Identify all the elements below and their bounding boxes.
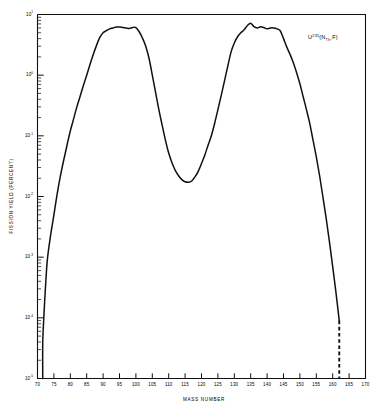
y-tick-label: 10-4 <box>25 314 33 320</box>
x-tick-label: 135 <box>247 382 255 387</box>
x-tick-label: 160 <box>329 382 337 387</box>
series-annotation: U235(NTh,F) <box>308 34 338 42</box>
y-tick-label: 100 <box>26 71 33 77</box>
y-axis-tick-labels: 10110010-110-210-310-410-5 <box>25 10 33 380</box>
x-tick-label: 115 <box>181 382 189 387</box>
x-tick-label: 90 <box>100 382 106 387</box>
x-tick-label: 105 <box>148 382 156 387</box>
x-tick-label: 70 <box>35 382 41 387</box>
y-tick-label: 10-2 <box>25 192 33 198</box>
x-axis-ticks <box>38 372 366 379</box>
x-tick-label: 85 <box>84 382 90 387</box>
y-tick-label: 10-5 <box>25 374 33 380</box>
y-tick-label: 10-1 <box>25 132 33 138</box>
plot-frame <box>38 15 366 379</box>
x-axis-title: MASS NUMBER <box>183 397 225 402</box>
x-tick-label: 125 <box>214 382 222 387</box>
x-tick-label: 140 <box>263 382 271 387</box>
x-axis-tick-labels: 7075808590951001051101151201251301351401… <box>35 382 370 387</box>
x-tick-label: 95 <box>117 382 123 387</box>
x-tick-label: 80 <box>68 382 74 387</box>
fission-yield-figure: 10110010-110-210-310-410-5 7075808590951… <box>0 0 376 412</box>
x-tick-label: 165 <box>345 382 353 387</box>
x-tick-label: 100 <box>132 382 140 387</box>
y-tick-label: 101 <box>26 10 33 16</box>
x-tick-label: 130 <box>230 382 238 387</box>
series-fission-yield-curve <box>43 23 340 378</box>
axis-frame <box>38 15 366 379</box>
y-axis-title: FISSION YIELD (PERCENT) <box>9 158 14 233</box>
x-tick-label: 155 <box>312 382 320 387</box>
x-tick-label: 145 <box>280 382 288 387</box>
x-tick-label: 75 <box>51 382 57 387</box>
chart-canvas: 10110010-110-210-310-410-5 7075808590951… <box>0 0 376 412</box>
data-series-layer <box>43 23 340 378</box>
x-tick-label: 150 <box>296 382 304 387</box>
x-tick-label: 120 <box>198 382 206 387</box>
series-annotation-layer: U235(NTh,F) <box>308 34 338 42</box>
y-tick-label: 10-3 <box>25 253 33 259</box>
x-tick-label: 110 <box>165 382 173 387</box>
x-tick-label: 170 <box>362 382 370 387</box>
